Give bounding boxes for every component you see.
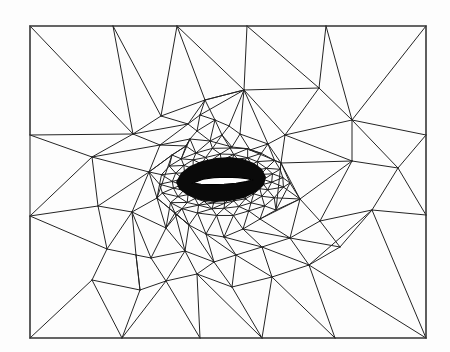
mesh-edge: [283, 178, 284, 187]
mesh-figure: [0, 0, 450, 352]
mesh-edge: [224, 203, 225, 208]
mesh-edge: [169, 165, 184, 166]
mesh-canvas: [0, 0, 450, 352]
